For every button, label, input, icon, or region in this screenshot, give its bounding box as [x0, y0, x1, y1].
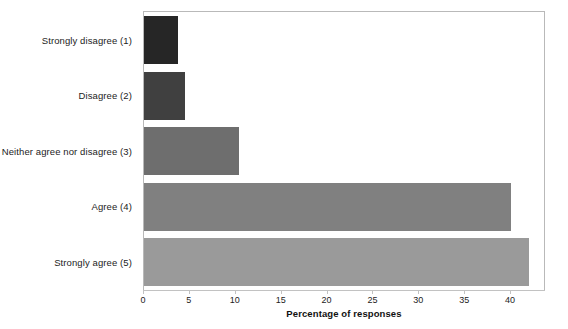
category-axis-labels: Strongly disagree (1) Disagree (2) Neith…	[0, 12, 138, 290]
x-tick-mark	[464, 290, 465, 294]
x-tick-label: 0	[140, 295, 145, 305]
bar-row	[144, 16, 545, 64]
x-tick-label: 20	[322, 295, 332, 305]
bars-container	[144, 12, 545, 290]
x-tick-label: 5	[186, 295, 191, 305]
bar-row	[144, 72, 545, 120]
bar-strongly-disagree	[144, 16, 178, 64]
x-axis-title: Percentage of responses	[143, 308, 545, 319]
bar-row	[144, 127, 545, 175]
x-tick-label: 30	[413, 295, 423, 305]
bar-row	[144, 183, 545, 231]
category-label: Strongly disagree (1)	[0, 16, 138, 64]
category-label: Strongly agree (5)	[0, 238, 138, 286]
x-tick-mark	[281, 290, 282, 294]
x-tick-label: 15	[276, 295, 286, 305]
x-tick-mark	[235, 290, 236, 294]
bar-agree	[144, 183, 511, 231]
x-axis-ticks: 0510152025303540	[143, 290, 545, 294]
category-label: Agree (4)	[0, 183, 138, 231]
category-label: Disagree (2)	[0, 72, 138, 120]
horizontal-bar-chart: Strongly disagree (1) Disagree (2) Neith…	[0, 0, 568, 329]
bar-strongly-agree	[144, 238, 529, 286]
x-tick-mark	[510, 290, 511, 294]
x-tick-mark	[418, 290, 419, 294]
x-tick-mark	[143, 290, 144, 294]
x-tick-mark	[372, 290, 373, 294]
x-tick-mark	[189, 290, 190, 294]
x-tick-mark	[327, 290, 328, 294]
x-tick-label: 35	[459, 295, 469, 305]
x-tick-label: 25	[367, 295, 377, 305]
x-tick-label: 40	[505, 295, 515, 305]
x-tick-label: 10	[230, 295, 240, 305]
bar-neither	[144, 127, 239, 175]
category-label: Neither agree nor disagree (3)	[0, 127, 138, 175]
bar-disagree	[144, 72, 185, 120]
bar-row	[144, 238, 545, 286]
